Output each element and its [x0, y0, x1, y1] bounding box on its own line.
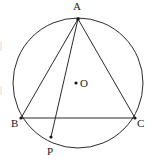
- point-label-p: P: [47, 146, 53, 157]
- point-label-c: C: [137, 118, 144, 129]
- point-label-b: B: [11, 118, 18, 129]
- clipped-text-fragment-top: |: [0, 41, 2, 51]
- center-dot-o: [74, 81, 77, 84]
- geometry-canvas: [0, 0, 152, 163]
- vertex-dot-b: [19, 116, 22, 119]
- center-label-o: O: [80, 78, 88, 89]
- point-label-a: A: [73, 1, 81, 12]
- clipped-text-fragment-middle: |: [0, 85, 2, 95]
- geometry-figure: A B C P O | |: [0, 0, 152, 163]
- vertex-dot-p: [49, 135, 52, 138]
- vertex-dot-a: [76, 17, 80, 21]
